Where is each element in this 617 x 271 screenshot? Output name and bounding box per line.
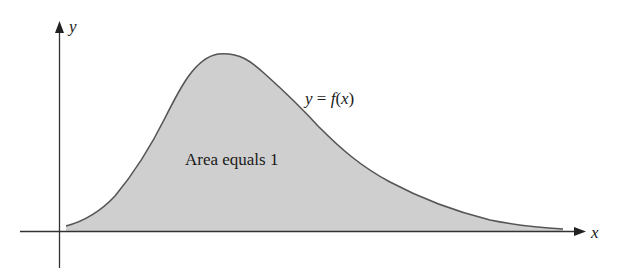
area-label: Area equals 1 [185,150,278,169]
shaded-area [66,54,563,231]
density-diagram: y x y = f(x) Area equals 1 [0,0,617,271]
x-axis-arrow-icon [574,227,586,236]
curve-label: y = f(x) [303,89,354,108]
y-axis-label: y [67,17,77,36]
y-axis-arrow-icon [55,21,64,33]
x-axis-label: x [590,223,599,242]
